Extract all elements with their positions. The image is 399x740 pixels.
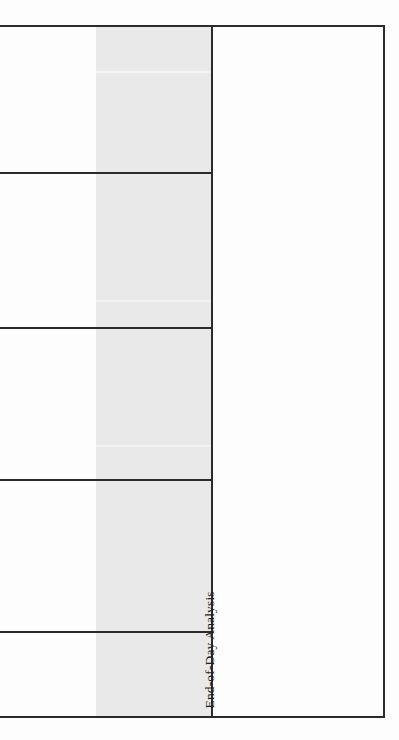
table-row[interactable] xyxy=(0,329,213,479)
table-row[interactable] xyxy=(0,481,213,631)
table-row[interactable] xyxy=(0,174,213,327)
table: End-of-Day Analysis xyxy=(0,25,385,718)
table-row[interactable] xyxy=(0,633,213,716)
table-right-border xyxy=(383,25,385,718)
page-canvas: End-of-Day Analysis xyxy=(0,0,399,740)
table-row[interactable] xyxy=(0,27,213,172)
label-column: End-of-Day Analysis xyxy=(213,25,383,718)
section-label: End-of-Day Analysis xyxy=(203,591,217,708)
